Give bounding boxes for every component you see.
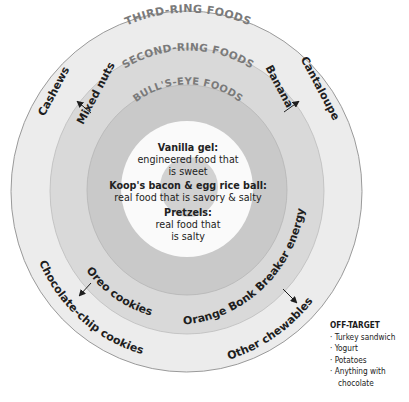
rice-ball-desc: real food that is savory & salty [114,192,262,203]
vanilla-gel-desc-1: engineered food that [137,154,238,165]
rice-ball-name: Koop's bacon & egg rice ball: [109,180,267,191]
pretzels-desc-1: real food that [156,219,221,230]
off-target-item-cont: chocolate [330,378,395,390]
vanilla-gel-name: Vanilla gel: [158,142,218,153]
off-target-item: Yogurt [330,343,395,355]
off-target-item: Turkey sandwich [330,332,395,344]
off-target-title: OFF-TARGET [330,320,395,332]
off-target-item: Potatoes [330,355,395,367]
pretzels-name: Pretzels: [164,207,212,218]
pretzels-desc-2: is salty [171,231,205,242]
vanilla-gel-desc-2: is sweet [168,166,207,177]
off-target-item: Anything with [330,366,395,378]
off-target-list: OFF-TARGET Turkey sandwich Yogurt Potato… [330,320,395,390]
